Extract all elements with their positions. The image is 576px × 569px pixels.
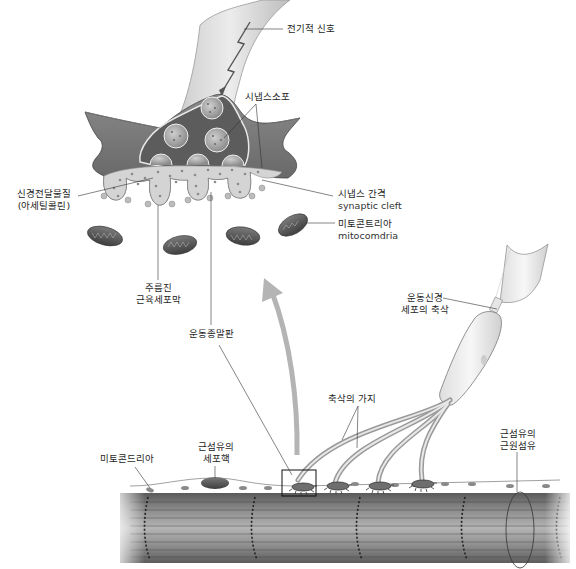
neuromuscular-junction-diagram: 전기적 신호 시냅스소포 신경전달물질 (아세틸콜린) 시냅스 간격 synap… <box>0 0 576 569</box>
label-muscle-nucleus-line2: 세포핵 <box>188 453 244 465</box>
zoom-arrow-icon <box>262 278 297 455</box>
label-synaptic-cleft-ko: 시냅스 간격 <box>338 188 402 200</box>
label-muscle-nucleus-line1: 근섬유의 <box>188 441 244 453</box>
label-motor-axon-line1: 운동신경 <box>395 292 455 304</box>
label-myofibril: 근섬유의 근원섬유 <box>490 428 546 452</box>
muscle-nucleus <box>201 477 229 489</box>
label-neurotransmitter: 신경전달물질 (아세틸콜린) <box>6 188 82 212</box>
motor-end-plates <box>292 480 434 491</box>
label-synaptic-cleft-en: synaptic cleft <box>338 200 402 212</box>
label-muscle-nucleus: 근섬유의 세포핵 <box>188 441 244 465</box>
label-axon-branches: 축삭의 가지 <box>328 393 376 405</box>
label-myofibril-line1: 근섬유의 <box>490 428 546 440</box>
motor-axon <box>440 244 548 405</box>
label-motor-axon-line2: 세포의 축삭 <box>395 304 455 316</box>
label-inset-mitochondria-en: mitocomdria <box>338 230 398 242</box>
muscle-surface <box>146 470 550 496</box>
label-folded-membrane-line1: 주름진 <box>122 282 194 294</box>
label-folded-membrane: 주름진 근육세포막 <box>122 282 194 306</box>
muscle-fiber <box>110 478 576 568</box>
label-synaptic-cleft: 시냅스 간격 synaptic cleft <box>338 188 402 212</box>
label-motor-end-plate: 운동종말판 <box>180 328 242 340</box>
label-neurotransmitter-line1: 신경전달물질 <box>6 188 82 200</box>
label-mitochondria: 미토콘드리아 <box>100 453 154 465</box>
diagram-artwork <box>0 0 576 569</box>
label-folded-membrane-line2: 근육세포막 <box>122 294 194 306</box>
label-inset-mitochondria-ko: 미토콘트리아 <box>338 218 398 230</box>
label-electrical-signal: 전기적 신호 <box>287 23 335 35</box>
label-myofibril-line2: 근원섬유 <box>490 440 546 452</box>
label-motor-axon: 운동신경 세포의 축삭 <box>395 292 455 316</box>
label-neurotransmitter-line2: (아세틸콜린) <box>6 200 82 212</box>
inset-mitochondria <box>85 209 311 257</box>
label-synaptic-vesicle: 시냅스소포 <box>245 91 290 103</box>
inset-terminal <box>85 94 300 207</box>
label-inset-mitochondria: 미토콘트리아 mitocomdria <box>338 218 398 242</box>
